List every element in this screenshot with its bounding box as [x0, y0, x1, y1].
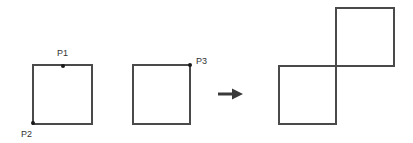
diagram-canvas: P1 P2 P3 [0, 0, 413, 143]
result-square-lower-left [279, 66, 336, 124]
result-square-upper-right [336, 8, 394, 66]
point-marker-p3 [188, 63, 192, 67]
geometry-transformation-figure: P1 P2 P3 [0, 0, 413, 143]
point-marker-p2 [31, 121, 35, 125]
point-label-p2: P2 [21, 129, 32, 139]
transformation-arrow [218, 89, 243, 100]
point-label-p3: P3 [196, 56, 207, 66]
target-square-with-point [133, 65, 190, 124]
source-square-with-points [33, 65, 92, 124]
point-marker-p1 [61, 64, 65, 68]
point-label-p1: P1 [57, 48, 68, 58]
